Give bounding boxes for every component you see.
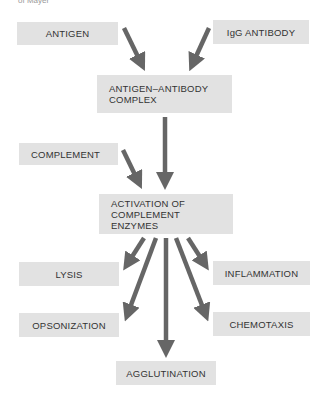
node-complement-label: COMPLEMENT xyxy=(31,149,100,160)
node-igg-antibody: IgG ANTIBODY xyxy=(213,20,309,44)
arrow-complement-to-activation xyxy=(123,150,138,181)
node-inflammation-label: INFLAMMATION xyxy=(225,268,298,279)
arrow-activation-to-chemotaxis xyxy=(176,238,205,313)
arrow-activation-to-inflammation xyxy=(188,238,204,263)
node-activation-label: ACTIVATION OF COMPLEMENT ENZYMES xyxy=(111,198,185,231)
node-antigen-antibody-complex: ANTIGEN–ANTIBODY COMPLEX xyxy=(97,75,232,113)
node-activation-of-complement-enzymes: ACTIVATION OF COMPLEMENT ENZYMES xyxy=(99,194,233,234)
node-antigen-label: ANTIGEN xyxy=(46,28,90,39)
arrow-antigen-to-complex xyxy=(124,28,141,63)
node-lysis: LYSIS xyxy=(19,262,119,286)
node-complex-label: ANTIGEN–ANTIBODY COMPLEX xyxy=(109,83,208,105)
arrow-activation-to-opsonization xyxy=(128,238,156,313)
node-complement: COMPLEMENT xyxy=(19,143,118,165)
arrow-activation-to-lysis xyxy=(128,238,144,263)
node-chemotaxis: CHEMOTAXIS xyxy=(213,312,310,336)
node-inflammation: INFLAMMATION xyxy=(213,261,310,285)
node-igg-antibody-label: IgG ANTIBODY xyxy=(227,27,295,38)
arrow-igg-to-complex xyxy=(193,28,209,63)
node-opsonization-label: OPSONIZATION xyxy=(32,320,105,331)
node-chemotaxis-label: CHEMOTAXIS xyxy=(229,319,293,330)
node-agglutination: AGGLUTINATION xyxy=(116,361,216,385)
node-opsonization: OPSONIZATION xyxy=(19,313,119,337)
node-lysis-label: LYSIS xyxy=(55,269,82,280)
node-agglutination-label: AGGLUTINATION xyxy=(126,368,206,379)
node-antigen: ANTIGEN xyxy=(17,22,118,45)
